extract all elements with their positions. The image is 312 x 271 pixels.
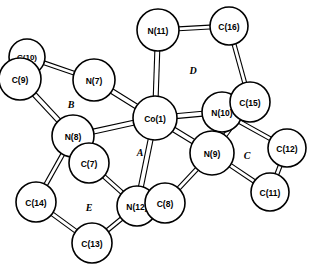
atom-n11: N(11) bbox=[137, 9, 179, 51]
atom-n9: N(9) bbox=[190, 131, 234, 175]
atom-c16: C(16) bbox=[210, 7, 248, 45]
atom-co1: Co(1) bbox=[133, 96, 177, 140]
atom-label-c12: C(12) bbox=[276, 144, 297, 154]
atom-label-n8: N(8) bbox=[65, 132, 82, 142]
atom-label-n9: N(9) bbox=[204, 149, 221, 159]
atom-label-c9: C(9) bbox=[12, 75, 29, 85]
atom-label-c8: C(8) bbox=[157, 199, 174, 209]
atom-c15: C(15) bbox=[230, 82, 270, 122]
atom-label-n11: N(11) bbox=[148, 26, 169, 36]
atom-label-c11: C(11) bbox=[260, 188, 281, 198]
atom-c13: C(13) bbox=[72, 223, 112, 263]
atom-label-c16: C(16) bbox=[218, 22, 239, 32]
ring-label-e: E bbox=[85, 202, 93, 213]
ring-label-d: D bbox=[188, 65, 196, 76]
atom-c7: C(7) bbox=[69, 143, 109, 183]
atom-label-c15: C(15) bbox=[239, 98, 260, 108]
ring-label-a: A bbox=[136, 147, 144, 158]
ring-label-b: B bbox=[67, 99, 75, 110]
ring-label-c: C bbox=[244, 150, 251, 161]
atom-label-n7: N(7) bbox=[86, 76, 103, 86]
atom-c11: C(11) bbox=[251, 173, 289, 211]
atom-label-c13: C(13) bbox=[81, 239, 102, 249]
atom-c12: C(12) bbox=[268, 129, 306, 167]
atom-c8: C(8) bbox=[145, 183, 185, 223]
atom-label-co1: Co(1) bbox=[144, 114, 166, 124]
atom-label-c7: C(7) bbox=[81, 159, 98, 169]
atom-label-n10: N(10) bbox=[211, 108, 232, 118]
atom-label-c14: C(14) bbox=[25, 198, 46, 208]
atom-c14: C(14) bbox=[16, 182, 56, 222]
molecular-diagram-canvas: N(11)C(16)C(10)N(7)N(8)C(12)C(11)C(14)C(… bbox=[0, 0, 312, 271]
atom-n7: N(7) bbox=[73, 59, 115, 101]
atom-c9: C(9) bbox=[0, 58, 41, 100]
molecule-svg: N(11)C(16)C(10)N(7)N(8)C(12)C(11)C(14)C(… bbox=[0, 0, 312, 271]
